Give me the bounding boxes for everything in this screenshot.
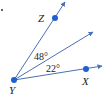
label-y: Y: [9, 84, 17, 96]
point-x: [83, 66, 89, 72]
angle-label-22: 22°: [46, 63, 60, 74]
angle-label-48: 48°: [34, 51, 48, 62]
label-x: X: [81, 75, 90, 87]
stray-dot: [1, 9, 3, 11]
point-z: [52, 15, 58, 21]
point-y: [11, 77, 17, 83]
label-z: Z: [38, 12, 45, 24]
angle-diagram: Z X Y 48° 22°: [0, 0, 111, 98]
